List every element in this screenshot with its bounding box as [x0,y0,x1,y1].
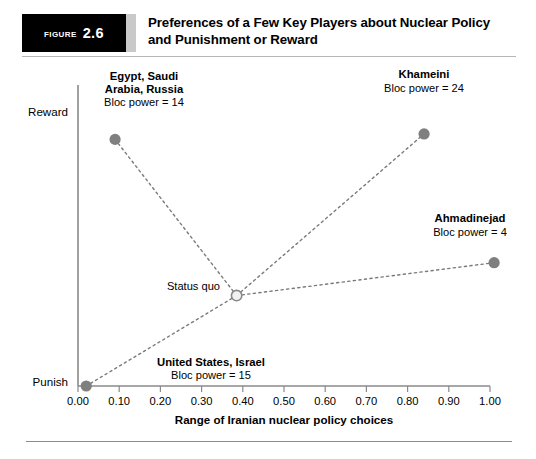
annotation-ahmadinejad-bloc-power: Bloc power = 4 [433,226,507,238]
annotation-united-states-israel: United States, Israel Bloc power = 15 [157,356,265,381]
connection-lines [86,134,494,386]
annotation-united-states-israel-line-1: United States, Israel [157,356,265,368]
x-axis-ticks: 0.000.100.200.300.400.500.600.700.800.90… [67,386,501,407]
data-point-khameini[interactable] [418,128,429,139]
x-axis-tick-label: 0.60 [314,395,336,407]
x-axis-tick-label: 0.70 [356,395,378,407]
annotation-ahmadinejad: Ahmadinejad Bloc power = 4 [433,212,507,238]
annotation-khameini-bloc-power: Bloc power = 24 [384,82,464,94]
x-axis-tick-label: 0.00 [67,395,89,407]
x-axis-tick-label: 0.30 [191,395,213,407]
annotation-united-states-israel-bloc-power: Bloc power = 15 [171,369,251,381]
annotation-khameini: Khameini Bloc power = 24 [384,68,464,94]
data-point-status-quo[interactable] [231,290,241,300]
annotation-egypt-saudi-russia-bloc-power: Bloc power = 14 [104,96,184,108]
x-axis-tick-label: 0.20 [150,395,172,407]
connection-line-egypt-saudi-russia [115,139,237,295]
point-annotations: Egypt, Saudi Arabia, Russia Bloc power =… [104,68,507,381]
annotation-khameini-line-1: Khameini [399,68,450,80]
annotation-status-quo: Status quo [167,280,220,292]
x-axis-title: Range of Iranian nuclear policy choices [175,413,393,426]
x-axis-tick-label: 0.40 [232,395,254,407]
data-point-ahmadinejad[interactable] [489,257,500,268]
x-axis-tick-label: 0.80 [397,395,419,407]
connection-line-khameini [237,134,424,296]
connection-line-ahmadinejad [237,263,495,296]
scatter-chart: 0.000.100.200.300.400.500.600.700.800.90… [0,0,536,459]
x-axis-tick-label: 0.90 [438,395,460,407]
y-axis-label-punish: Punish [33,375,68,388]
x-axis-tick-label: 1.00 [479,395,501,407]
annotation-egypt-saudi-russia-line-2: Arabia, Russia [105,83,184,95]
x-axis-tick-label: 0.50 [273,395,295,407]
data-point-egypt-saudi-russia[interactable] [109,134,120,145]
annotation-egypt-saudi-russia: Egypt, Saudi Arabia, Russia Bloc power =… [104,70,184,108]
x-axis-tick-label: 0.10 [108,395,130,407]
data-point-united-states-israel[interactable] [81,380,92,391]
annotation-status-quo-label: Status quo [167,280,220,292]
annotation-ahmadinejad-line-1: Ahmadinejad [435,212,506,224]
y-axis-label-reward: Reward [28,105,68,118]
annotation-egypt-saudi-russia-line-1: Egypt, Saudi [110,70,178,82]
